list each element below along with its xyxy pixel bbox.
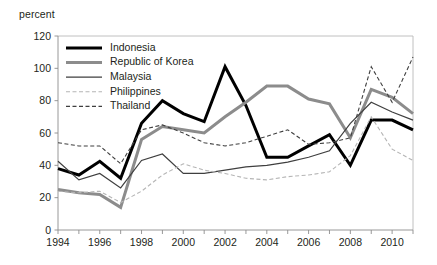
y-tick-label: 20 xyxy=(39,191,51,203)
legend-item-thailand[interactable]: Thailand xyxy=(66,99,150,111)
x-tick-label: 2004 xyxy=(255,236,279,248)
x-tick-label: 2010 xyxy=(380,236,404,248)
y-axis-tick-labels: 020406080100120 xyxy=(33,30,51,236)
legend-label: Philippines xyxy=(110,85,161,97)
x-tick-label: 2006 xyxy=(297,236,321,248)
series-line-indonesia xyxy=(58,67,413,179)
legend-item-republic-of-korea[interactable]: Republic of Korea xyxy=(66,55,194,67)
x-axis-tick-labels: 199419961998200020022004200620082010 xyxy=(46,236,404,248)
y-tick-label: 40 xyxy=(39,159,51,171)
x-tick-label: 2002 xyxy=(213,236,237,248)
x-tick-label: 1994 xyxy=(46,236,70,248)
chart-legend: IndonesiaRepublic of KoreaMalaysiaPhilip… xyxy=(66,41,194,111)
legend-label: Malaysia xyxy=(110,70,152,82)
y-tick-label: 60 xyxy=(39,127,51,139)
legend-label: Republic of Korea xyxy=(110,55,194,67)
y-tick-label: 80 xyxy=(39,94,51,106)
legend-label: Indonesia xyxy=(110,41,156,53)
line-chart: percent 020406080100120 1994199619982000… xyxy=(0,0,437,265)
legend-label: Thailand xyxy=(110,99,150,111)
legend-item-indonesia[interactable]: Indonesia xyxy=(66,41,156,53)
x-tick-label: 2000 xyxy=(172,236,196,248)
series-line-philippines xyxy=(58,117,413,203)
x-tick-label: 2008 xyxy=(339,236,363,248)
axis-ticks xyxy=(55,36,414,234)
x-tick-label: 1998 xyxy=(130,236,154,248)
y-tick-label: 120 xyxy=(33,30,51,42)
legend-item-malaysia[interactable]: Malaysia xyxy=(66,70,152,82)
x-tick-label: 1996 xyxy=(88,236,112,248)
y-tick-label: 100 xyxy=(33,62,51,74)
chart-canvas: 020406080100120 199419961998200020022004… xyxy=(0,0,437,265)
y-tick-label: 0 xyxy=(45,224,51,236)
legend-item-philippines[interactable]: Philippines xyxy=(66,85,161,97)
